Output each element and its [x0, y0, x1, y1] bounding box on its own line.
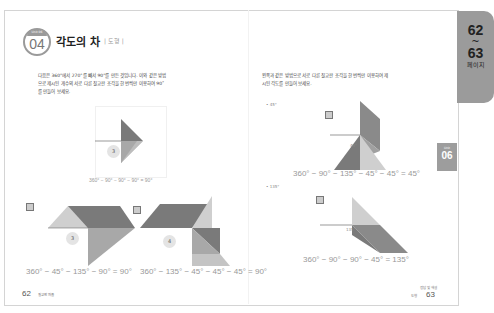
- page-number-right: 63: [426, 290, 435, 299]
- answer-2-equation: 360° − 135° − 45° − 45° − 45° = 90°: [140, 267, 267, 276]
- folio-label-right: 도형: [411, 293, 417, 298]
- target-angle-label: • 45°: [266, 102, 277, 107]
- page-word: 페이지: [457, 61, 494, 69]
- unit-tab: Unit 06: [437, 143, 457, 171]
- page-title: 각도의 차: [56, 33, 100, 49]
- problem-45-equation: 360° − 90° − 135° − 45° − 45° = 45°: [293, 169, 420, 178]
- example-tangram: [95, 115, 155, 175]
- target-angle-label: • 135°: [266, 184, 279, 189]
- example-equation: 360° − 90° − 90° − 90° = 90°: [89, 177, 152, 183]
- page-number-left: 62: [22, 289, 31, 298]
- unit-badge-label: Unit 06: [27, 29, 47, 36]
- instruction-line: 시된 각도를 만들어 보세요.: [262, 80, 388, 88]
- right-instruction: 왼쪽과 같은 방법으로 서로 다른 칠교판 조각을 한 번씩만 이용하여 제 시…: [262, 72, 388, 88]
- unit-number: 04: [25, 36, 49, 52]
- unit-tab-number: 06: [437, 150, 457, 161]
- left-instruction: 다음은 360°에서 270°를 빼서 90°를 만든 것입니다. 이와 같은 …: [38, 72, 166, 96]
- piece-count-badge: 4: [163, 235, 176, 248]
- instruction-line: 으로 제시된 개수의 서로 다른 칠교판 조각을 한 번씩만 이용하여 90˚: [38, 80, 166, 88]
- instruction-line: 왼쪽과 같은 방법으로 서로 다른 칠교판 조각을 한 번씩만 이용하여 제: [262, 72, 388, 80]
- problem-45-tangram: [330, 97, 410, 177]
- answer-2-tangram: [140, 196, 250, 271]
- angle-annotation: 45°: [350, 143, 357, 148]
- unit-badge: Unit 06 04: [23, 28, 51, 56]
- folio-label-left: 칠교판 퍼즐: [38, 292, 54, 297]
- piece-count-badge: 3: [107, 145, 120, 158]
- angle-annotation: 135°: [346, 227, 356, 232]
- answer-marker-icon: [26, 203, 34, 211]
- answer-1-tangram: [40, 198, 140, 268]
- page-subtitle: | 도형 |: [104, 36, 124, 45]
- page-range-end: 63: [457, 46, 494, 61]
- problem-135-equation: 360° − 90° − 90° − 45° = 135°: [303, 255, 409, 264]
- instruction-line: 를 만들어 보세요.: [38, 88, 166, 96]
- piece-count-badge: 3: [66, 232, 79, 245]
- instruction-line: 다음은 360°에서 270°를 빼서 90°를 만든 것입니다. 이와 같은 …: [38, 72, 166, 80]
- page-range-tab: 62 ~ 63 페이지: [457, 11, 494, 103]
- answer-1-equation: 360° − 45° − 135° − 90° = 90°: [26, 267, 132, 276]
